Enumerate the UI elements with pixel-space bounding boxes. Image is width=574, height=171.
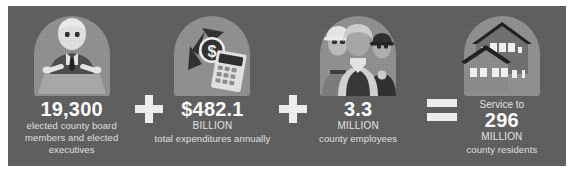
stat-text: 3.3 MILLION county employees: [290, 99, 427, 145]
infographic-panel: 19,300 elected county board members and …: [8, 6, 566, 166]
stat-description: total expenditures annually: [146, 133, 278, 145]
stat-text: $482.1 BILLION total expenditures annual…: [146, 99, 278, 145]
plus-icon: [279, 95, 290, 123]
stat-unit: MILLION: [290, 120, 427, 133]
stat-value: 296: [438, 110, 566, 131]
equals-operator: [427, 6, 438, 166]
plus-icon: [135, 95, 146, 123]
stat-description: county employees: [290, 133, 427, 145]
stat-value: 3.3: [290, 99, 427, 120]
stat-unit: BILLION: [146, 120, 278, 133]
stat-description: elected county board members and elected…: [8, 120, 135, 156]
stat-description: county residents: [438, 144, 566, 156]
equals-icon: [427, 99, 438, 121]
stat-block-residents: Service to 296 MILLION county residents: [438, 6, 566, 166]
stat-text: 19,300 elected county board members and …: [8, 99, 135, 156]
county-workers-icon: [312, 12, 404, 96]
stat-value: $482.1: [146, 99, 278, 120]
stat-text: Service to 296 MILLION county residents: [438, 99, 566, 156]
stat-unit: MILLION: [438, 131, 566, 144]
stats-row: 19,300 elected county board members and …: [8, 6, 566, 166]
stat-value: 19,300: [8, 99, 135, 120]
houses-icon: [456, 12, 548, 96]
official-at-podium-icon: [26, 12, 118, 96]
plus-operator: [135, 6, 146, 166]
svg-text:$: $: [208, 43, 217, 60]
stat-block-employees: 3.3 MILLION county employees: [290, 6, 427, 166]
plus-operator: [279, 6, 290, 166]
money-calculator-icon: $: [166, 12, 258, 96]
stat-block-expenditures: $: [146, 6, 278, 166]
stat-block-elected-officials: 19,300 elected county board members and …: [8, 6, 135, 166]
